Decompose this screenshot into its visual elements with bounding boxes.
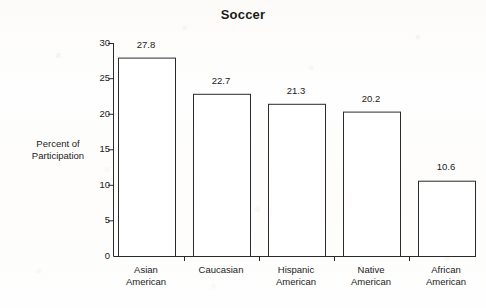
bar-native-american — [344, 112, 401, 256]
category-separator-ticks — [185, 257, 410, 262]
bar-caucasian — [194, 94, 251, 256]
bar-african-american — [419, 181, 476, 256]
bar-hispanic-american — [269, 104, 326, 256]
bar-asian-american — [119, 58, 176, 256]
chart-page: Soccer Percent of Participation 30 25 20… — [0, 0, 486, 308]
plot-area — [0, 0, 486, 308]
y-tick-marks — [108, 44, 114, 221]
